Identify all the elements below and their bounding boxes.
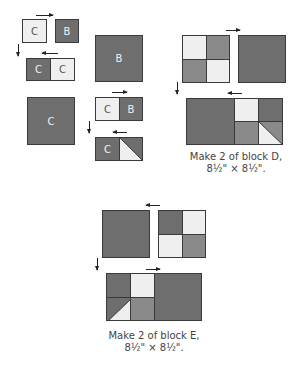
patch-c-light: C (95, 97, 120, 121)
label-b: B (116, 53, 123, 64)
four-patch-cell (206, 35, 230, 60)
four-patch-cell (182, 59, 207, 83)
arrow-right (146, 269, 160, 270)
patch-c-small: C (22, 19, 47, 43)
arrow-down (97, 258, 98, 270)
caption-line: 8½" × 8½". (186, 163, 286, 175)
block-d-cell (234, 98, 259, 122)
patch-hst (119, 137, 143, 161)
label-c: C (104, 144, 111, 155)
arrow-down (89, 121, 90, 133)
arrow-right (112, 92, 127, 93)
label-c: C (59, 64, 66, 75)
caption-line: 8½" × 8½". (104, 342, 204, 354)
arrow-right (226, 30, 240, 31)
block-d-cell (234, 121, 259, 145)
block-d-hst (258, 121, 283, 145)
four-patch-cell (158, 234, 183, 258)
label-c: C (104, 104, 111, 115)
block-d-cell (258, 98, 283, 122)
large-square (238, 35, 286, 83)
block-e-cell (106, 273, 131, 298)
block-e-hst (106, 297, 131, 321)
arrow-down (177, 82, 178, 94)
four-patch-cell (182, 234, 206, 258)
arrow-left (146, 205, 160, 206)
block-e-large (154, 273, 202, 321)
half-square-triangle-icon (259, 122, 283, 145)
block-e-cell (130, 273, 155, 298)
four-patch-cell (182, 210, 206, 235)
arrow-left (113, 132, 127, 133)
block-e-cell (130, 297, 155, 321)
block-d-large (186, 98, 235, 145)
arrow-left (228, 93, 242, 94)
four-patch-cell (206, 59, 230, 83)
patch-b-small: B (55, 19, 79, 43)
half-square-triangle-icon (107, 298, 131, 321)
caption-line: Make 2 of block E, (104, 330, 204, 342)
label-b: B (64, 26, 71, 37)
patch-b-large: B (95, 35, 143, 82)
patch-c-dark: C (95, 137, 120, 161)
arrow-left (42, 53, 58, 54)
arrow-down (18, 44, 19, 56)
label-c: C (31, 26, 38, 37)
half-square-triangle-icon (120, 138, 143, 161)
patch-b: B (119, 97, 143, 121)
patch-c-large: C (27, 97, 75, 145)
caption-line: Make 2 of block D, (186, 151, 286, 163)
four-patch-cell (158, 210, 183, 235)
caption-block-e: Make 2 of block E, 8½" × 8½". (104, 330, 204, 354)
caption-block-d: Make 2 of block D, 8½" × 8½". (186, 151, 286, 175)
label-c: C (48, 116, 55, 127)
label-b: B (128, 104, 135, 115)
large-square (102, 210, 150, 258)
four-patch-cell (182, 35, 207, 60)
patch-c-dark: C (26, 58, 51, 81)
label-c: C (35, 64, 42, 75)
patch-c-light: C (50, 58, 75, 81)
arrow-right (36, 15, 53, 16)
